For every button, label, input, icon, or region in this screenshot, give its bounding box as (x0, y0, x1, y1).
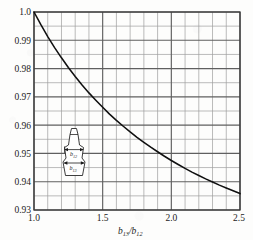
x-axis-tick-labels: 1.0 1.5 2.0 2.5 (28, 213, 245, 223)
inset-label-b13-sub: 13 (73, 168, 77, 173)
y-tick-label: 1.0 (19, 7, 31, 17)
y-tick-label: 0.97 (14, 92, 31, 102)
chart-figure: 1.0 0.99 0.98 0.97 0.96 0.95 0.94 0.93 1… (0, 0, 253, 240)
x-tick-label: 2.5 (233, 213, 245, 223)
furnace-cross-section-inset: b12 b13 (63, 129, 85, 176)
x-tick-label: 1.5 (97, 213, 109, 223)
y-tick-label: 0.96 (14, 121, 31, 131)
x-axis-title: b13/b12 (118, 226, 143, 237)
y-tick-label: 0.95 (14, 149, 31, 159)
x-axis-title-sub2: 12 (136, 230, 142, 237)
y-tick-label: 0.94 (14, 177, 31, 187)
y-tick-label: 0.99 (14, 36, 31, 46)
y-tick-label: 0.98 (14, 64, 31, 74)
correction-factor-line-chart: 1.0 0.99 0.98 0.97 0.96 0.95 0.94 0.93 1… (0, 0, 253, 240)
x-axis-title-text: b13/b12 (118, 226, 143, 237)
x-tick-label: 2.0 (165, 213, 177, 223)
x-tick-label: 1.0 (28, 213, 40, 223)
y-axis-tick-labels: 1.0 0.99 0.98 0.97 0.96 0.95 0.94 0.93 (14, 7, 31, 215)
inset-label-b12-sub: 12 (73, 154, 77, 159)
